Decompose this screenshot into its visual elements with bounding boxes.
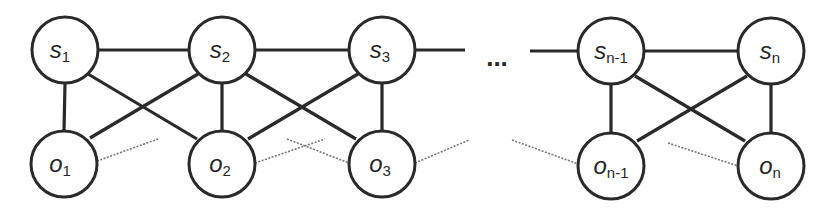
node-o1: o1 (31, 131, 97, 197)
dotted-o2-a (255, 139, 325, 163)
cross-edges (88, 74, 747, 141)
dotted-o3-b (415, 140, 469, 163)
node-o-n-minus-1: on-1 (578, 133, 644, 199)
node-subscript: n-1 (607, 164, 629, 181)
node-o3: o3 (349, 131, 415, 197)
dotted-on (668, 143, 738, 166)
node-o-n: on (738, 133, 804, 199)
dotted-o1 (97, 139, 158, 161)
node-subscript: 1 (63, 162, 71, 179)
node-s3: s3 (349, 17, 415, 83)
node-label: s (370, 36, 382, 63)
node-subscript: 2 (222, 48, 230, 65)
node-subscript: 1 (62, 48, 70, 65)
node-s2: s2 (189, 17, 255, 83)
node-label: s (594, 37, 606, 64)
hmm-chain-diagram: ... s1 s2 s3 sn-1 sn o1 o2 o3 on-1 on (0, 0, 836, 210)
node-label: s (50, 36, 62, 63)
node-label: o (49, 150, 62, 177)
node-s-n: sn (738, 18, 804, 84)
node-s-n-minus-1: sn-1 (578, 18, 644, 84)
node-label: s (760, 37, 772, 64)
node-label: o (593, 152, 606, 179)
node-label: o (759, 152, 772, 179)
node-subscript: n (773, 164, 781, 181)
node-subscript: n (772, 49, 780, 66)
node-label: s (210, 36, 222, 63)
edge-s1-o1 (64, 83, 65, 131)
node-o2: o2 (189, 131, 255, 197)
node-subscript: n-1 (606, 49, 628, 66)
node-label: o (369, 150, 382, 177)
node-s1: s1 (32, 17, 98, 83)
node-subscript: 3 (383, 162, 391, 179)
node-label: o (209, 150, 222, 177)
dotted-on1 (512, 140, 578, 164)
node-subscript: 3 (382, 48, 390, 65)
dotted-o3-a (287, 139, 349, 163)
node-subscript: 2 (223, 162, 231, 179)
ellipsis-text: ... (486, 42, 508, 72)
